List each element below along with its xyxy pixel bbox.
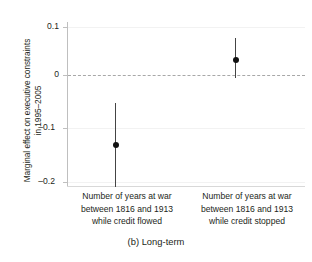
x-axis-line [67, 186, 305, 187]
y-tick-label-0.1: 0.1 [19, 22, 59, 31]
y-tick-label-0: 0 [19, 70, 59, 79]
x-category-2-line1: Number of years at war [187, 190, 307, 203]
gridline--0.2 [68, 182, 305, 183]
x-category-1-line3: while credit flowed [67, 215, 187, 228]
figure-caption: (b) Long-term [0, 236, 312, 247]
figure-panel: Marginal effect on executive constraints… [0, 0, 312, 262]
data-point-1 [113, 142, 119, 148]
y-axis-line [67, 22, 68, 186]
y-tick--0.1 [63, 128, 68, 129]
x-category-credit-flowed: Number of years at war between 1816 and … [67, 190, 187, 232]
x-category-1-line1: Number of years at war [67, 190, 187, 203]
x-category-credit-stopped: Number of years at war between 1816 and … [187, 190, 307, 232]
x-category-2-line3: while credit stopped [187, 215, 307, 228]
x-category-1-line2: between 1816 and 1913 [67, 203, 187, 216]
y-tick-label--0.2: –0.2 [15, 177, 55, 186]
y-tick-0.1 [63, 27, 68, 28]
y-tick--0.2 [63, 182, 68, 183]
plot-area: 0.1 0 –0.1 –0.2 [67, 22, 305, 186]
data-point-2 [233, 57, 239, 63]
gridline-0.1 [68, 27, 305, 28]
y-tick-label--0.1: –0.1 [15, 123, 55, 132]
gridline--0.1 [68, 128, 305, 129]
x-category-2-line2: between 1816 and 1913 [187, 203, 307, 216]
x-axis-category-labels: Number of years at war between 1816 and … [67, 190, 307, 232]
zero-reference-line [68, 75, 305, 76]
y-axis-title-line1: Marginal effect on executive constraints [22, 39, 32, 183]
